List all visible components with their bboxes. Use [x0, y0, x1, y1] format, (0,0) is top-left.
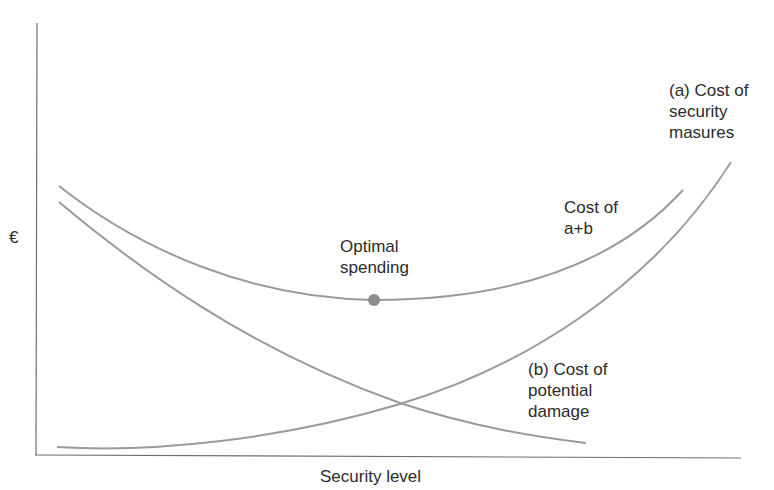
y-axis-label: €: [9, 228, 18, 248]
x-axis-label: Security level: [320, 467, 421, 487]
curve-a-label: (a) Cost of security masures: [669, 80, 748, 143]
optimal-spending-marker: [368, 294, 380, 306]
x-axis: [35, 455, 741, 458]
y-axis: [36, 23, 37, 455]
curve-a-security-cost: [57, 162, 731, 448]
curve-sum-label: Cost of a+b: [564, 197, 618, 239]
curve-b-label: (b) Cost of potential damage: [528, 359, 607, 422]
optimal-spending-label: Optimal spending: [340, 236, 409, 278]
